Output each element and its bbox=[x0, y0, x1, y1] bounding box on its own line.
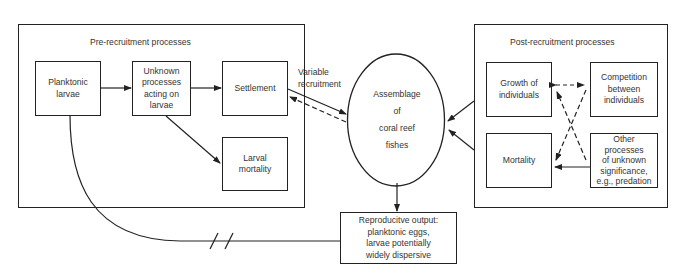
larval-mortality-line-1: Larval bbox=[239, 153, 271, 165]
pre-recruitment-title: Pre-recruitment processes bbox=[90, 37, 191, 49]
reproductive-line-1: Reproducitve output: bbox=[359, 215, 438, 227]
unknown-line-3: acting on bbox=[142, 89, 181, 101]
growth-box: Growth of individuals bbox=[486, 62, 552, 117]
arrow-post-to-assemblage-upper bbox=[448, 101, 474, 121]
assemblage-line-3: coral reef bbox=[356, 120, 438, 137]
competition-line-1: Competition bbox=[601, 72, 647, 84]
growth-line-1: Growth of bbox=[499, 78, 539, 90]
assemblage-line-4: fishes bbox=[356, 137, 438, 154]
unknown-processes-box: Unknown processes acting on larvae bbox=[132, 61, 191, 116]
variable-recruitment-label: Variable recruitment bbox=[298, 67, 341, 90]
settlement-box: Settlement bbox=[222, 61, 288, 116]
reproductive-line-4: widely dispersive bbox=[359, 250, 438, 262]
larval-mortality-line-2: mortality bbox=[239, 164, 271, 176]
growth-line-2: individuals bbox=[499, 90, 539, 102]
other-line-3: of unknown bbox=[597, 155, 652, 166]
unknown-line-4: larvae bbox=[142, 100, 181, 112]
other-line-2: processes bbox=[597, 145, 652, 156]
mortality-box: Mortality bbox=[486, 133, 552, 188]
competition-line-3: individuals bbox=[601, 95, 647, 107]
assemblage-line-2: of bbox=[356, 103, 438, 120]
planktonic-larvae-line-2: larvae bbox=[48, 89, 88, 101]
other-line-4: significance, bbox=[597, 166, 652, 177]
other-line-1: Other bbox=[597, 134, 652, 145]
unknown-line-1: Unknown bbox=[142, 66, 181, 78]
assemblage-label: Assemblage of coral reef fishes bbox=[356, 86, 438, 154]
planktonic-larvae-line-1: Planktonic bbox=[48, 77, 88, 89]
unknown-line-2: processes bbox=[142, 77, 181, 89]
arrow-post-to-assemblage-lower bbox=[449, 130, 474, 150]
reproductive-line-3: larvae potentially bbox=[359, 238, 438, 250]
other-processes-box: Other processes of unknown significance,… bbox=[590, 133, 658, 188]
planktonic-larvae-box: Planktonic larvae bbox=[35, 61, 101, 116]
reproductive-line-2: planktonic eggs, bbox=[359, 227, 438, 239]
reproductive-output-box: Reproducitve output: planktonic eggs, la… bbox=[340, 212, 457, 264]
other-line-5: e.g., predation bbox=[597, 176, 652, 187]
post-recruitment-title: Post-recruitment processes bbox=[510, 37, 615, 49]
competition-box: Competition between individuals bbox=[590, 62, 658, 117]
competition-line-2: between bbox=[601, 84, 647, 96]
mortality-label: Mortality bbox=[503, 155, 535, 167]
variable-recruitment-line-1: Variable bbox=[298, 67, 341, 79]
settlement-label: Settlement bbox=[234, 83, 275, 95]
assemblage-line-1: Assemblage bbox=[356, 86, 438, 103]
larval-mortality-box: Larval mortality bbox=[222, 137, 288, 191]
variable-recruitment-line-2: recruitment bbox=[298, 79, 341, 91]
